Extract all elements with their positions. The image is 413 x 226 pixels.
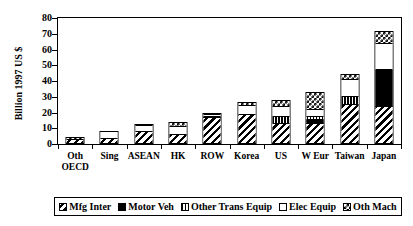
legend-item-label: Motor Veh — [128, 202, 174, 212]
bar-segment — [170, 135, 187, 144]
bar-segment — [101, 132, 118, 139]
bar-segment — [375, 107, 392, 143]
diagonal-hatch-swatch — [59, 203, 67, 211]
legend-item-label: Oth Mach — [353, 202, 397, 212]
bar-chart-figure: Billion 1997 US $ 01020304050607080 OthO… — [0, 0, 413, 226]
bar-segment — [375, 32, 392, 44]
y-axis-tick-label: 0 — [26, 139, 52, 149]
bar-slot — [264, 18, 298, 144]
bar-segment — [341, 80, 358, 97]
legend-item-label: Elec Equip — [289, 202, 336, 212]
bar-segment — [307, 110, 324, 117]
bar-segment — [272, 124, 289, 143]
legend-item[interactable]: Elec Equip — [279, 202, 336, 212]
stacked-bar[interactable] — [66, 137, 85, 144]
y-axis-tick-label: 50 — [26, 60, 52, 70]
stacked-bar[interactable] — [134, 124, 153, 144]
bar-segment — [272, 107, 289, 118]
stacked-bar[interactable] — [374, 31, 393, 144]
bar-slot — [58, 18, 92, 144]
bars-container — [58, 18, 401, 144]
bar-slot — [92, 18, 126, 144]
bar-segment — [238, 106, 255, 115]
bar-segment — [67, 140, 84, 143]
stacked-bar[interactable] — [100, 131, 119, 144]
bar-slot — [230, 18, 264, 144]
stacked-bar[interactable] — [237, 102, 256, 144]
x-axis-tick-label: Japan — [360, 151, 408, 162]
x-axis-tick-mark — [127, 145, 128, 149]
bar-slot — [161, 18, 195, 144]
stacked-bar[interactable] — [169, 122, 188, 144]
legend-item-label: Other Trans Equip — [191, 202, 272, 212]
legend-item[interactable]: Mfg Inter — [59, 202, 111, 212]
bar-segment — [170, 127, 187, 135]
solid-black-swatch — [118, 203, 126, 211]
bar-slot — [332, 18, 366, 144]
legend-item[interactable]: Oth Mach — [343, 202, 397, 212]
bar-slot — [195, 18, 229, 144]
bar-segment — [307, 93, 324, 110]
bar-slot — [298, 18, 332, 144]
white-swatch — [279, 203, 287, 211]
bar-segment — [238, 115, 255, 143]
y-axis-tick-label: 70 — [26, 29, 52, 39]
chart-legend: Mfg InterMotor VehOther Trans EquipElec … — [54, 197, 402, 216]
x-axis-tick-mark — [195, 145, 196, 149]
legend-item[interactable]: Other Trans Equip — [181, 202, 272, 212]
x-axis-tick-mark — [58, 145, 59, 149]
x-axis-tick-mark — [298, 145, 299, 149]
x-axis-tick-mark — [230, 145, 231, 149]
y-axis-tick-label: 40 — [26, 76, 52, 86]
bar-slot — [127, 18, 161, 144]
stacked-bar[interactable] — [271, 100, 290, 144]
stacked-bar[interactable] — [306, 92, 325, 144]
y-axis-tick-label: 60 — [26, 45, 52, 55]
y-axis-tick-label: 30 — [26, 92, 52, 102]
x-axis-tick-mark — [161, 145, 162, 149]
checkerboard-swatch — [343, 203, 351, 211]
x-axis-tick-mark — [92, 145, 93, 149]
bar-segment — [135, 132, 152, 143]
bar-segment — [307, 124, 324, 143]
y-axis-tick-label: 20 — [26, 108, 52, 118]
bar-segment — [375, 44, 392, 70]
bar-segment — [375, 70, 392, 108]
bar-segment — [204, 118, 221, 143]
bar-slot — [367, 18, 401, 144]
y-axis-tick-label: 80 — [26, 13, 52, 23]
y-axis-tick-label: 10 — [26, 123, 52, 133]
stacked-bar[interactable] — [340, 74, 359, 144]
bar-segment — [101, 139, 118, 143]
y-axis-title: Billion 1997 US $ — [13, 14, 24, 154]
x-axis-tick-mark — [264, 145, 265, 149]
vertical-lines-swatch — [181, 203, 189, 211]
stacked-bar[interactable] — [203, 113, 222, 144]
x-axis-tick-mark — [401, 145, 402, 149]
legend-item[interactable]: Motor Veh — [118, 202, 174, 212]
bar-segment — [341, 97, 358, 105]
legend-item-label: Mfg Inter — [69, 202, 111, 212]
x-axis-tick-mark — [332, 145, 333, 149]
x-axis-tick-mark — [367, 145, 368, 149]
bar-segment — [341, 105, 358, 143]
